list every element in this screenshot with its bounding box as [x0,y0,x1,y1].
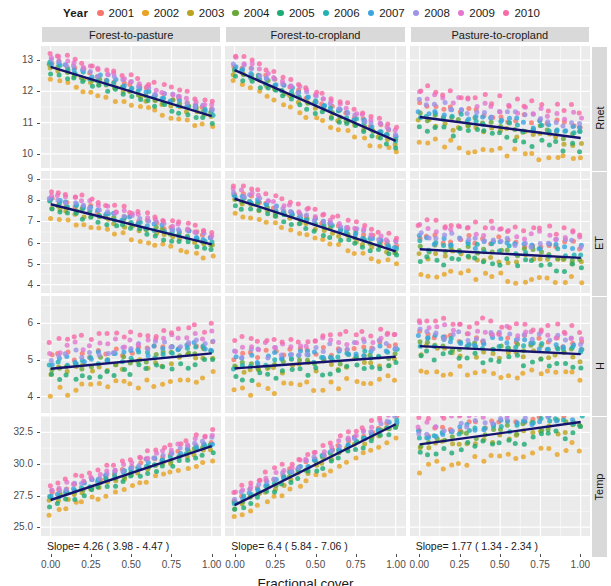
y-tick-label: 11 [0,117,33,128]
legend-swatch-icon [232,10,239,17]
panel-canvas [410,46,590,168]
legend-swatch-icon [458,10,465,17]
x-tick-mark [580,554,581,557]
facet-row-strip-et: ET [591,171,608,315]
legend-item-2001[interactable]: 2001 [97,7,134,19]
y-tick-mark [37,60,40,61]
legend-item-2006[interactable]: 2006 [323,7,360,19]
y-tick-label: 32.5 [0,426,33,437]
panel-canvas [225,171,405,293]
y-tick-label: 25.0 [0,521,33,532]
facet-panel-rnet-1 [225,46,405,168]
x-tick-label: 0.75 [522,559,558,570]
legend-swatch-icon [142,10,149,17]
facet-column-strip-pasture-to-cropland: Pasture-to-cropland [410,26,590,43]
facet-column-label: Pasture-to-cropland [452,29,549,41]
facet-row-strip-h: H [591,296,608,435]
y-tick-mark [37,123,40,124]
panel-canvas [225,416,405,536]
y-tick-mark [37,264,40,265]
x-tick-mark [131,554,132,557]
legend-item-2008[interactable]: 2008 [413,7,450,19]
y-tick-label: 4 [0,391,33,402]
x-tick-mark [396,554,397,557]
x-tick-mark [356,554,357,557]
legend-item-2004[interactable]: 2004 [232,7,269,19]
facet-panel-rnet-0 [41,46,221,168]
legend-item-2010[interactable]: 2010 [503,7,540,19]
panel-canvas [225,296,405,413]
panel-canvas [41,416,221,536]
legend-label: 2010 [514,7,540,19]
y-tick-label: 12 [0,85,33,96]
x-tick-label: 0.25 [257,559,293,570]
legend-item-2002[interactable]: 2002 [142,7,179,19]
slope-annotation: Slope= 4.26 ( 3.98 - 4.47 ) [47,540,219,552]
legend-swatch-icon [277,10,284,17]
facet-grid: Forest-to-pastureForest-to-croplandPastu… [0,26,611,586]
x-tick-mark [500,554,501,557]
facet-column-label: Forest-to-pasture [89,29,173,41]
legend-label: 2001 [109,7,135,19]
legend-label: 2008 [424,7,450,19]
legend: Year 20012002200320042005200620072008200… [0,0,611,26]
panel-canvas [225,46,405,168]
panel-canvas [410,296,590,413]
x-tick-mark [51,554,52,557]
legend-swatch-icon [323,10,330,17]
y-tick-mark [37,323,40,324]
facet-row-strip-temp: Temp [591,416,608,558]
slope-annotation: Slope= 6.4 ( 5.84 - 7.06 ) [231,540,403,552]
panel-canvas [410,416,590,536]
legend-swatch-icon [97,10,104,17]
legend-item-2009[interactable]: 2009 [458,7,495,19]
facet-column-strip-forest-to-pasture: Forest-to-pasture [41,26,221,43]
y-tick-mark [37,464,40,465]
x-tick-label: 0.00 [33,559,69,570]
legend-swatch-icon [503,10,510,17]
x-axis-title: Fractional cover [0,576,611,586]
y-tick-label: 27.5 [0,490,33,501]
legend-item-2003[interactable]: 2003 [187,7,224,19]
legend-label: 2007 [379,7,405,19]
y-tick-label: 9 [0,173,33,184]
facet-panel-et-2 [410,171,590,293]
facet-column-label: Forest-to-cropland [271,29,361,41]
x-tick-label: 0.50 [482,559,518,570]
x-tick-label: 0.75 [153,559,189,570]
facet-column-strip-forest-to-cropland: Forest-to-cropland [225,26,405,43]
facet-row-label: ET [594,236,606,250]
panel-canvas [41,171,221,293]
y-tick-label: 10 [0,148,33,159]
y-tick-label: 5 [0,258,33,269]
facet-panel-temp-0 [41,416,221,536]
facet-panel-et-1 [225,171,405,293]
panel-canvas [41,46,221,168]
legend-item-2007[interactable]: 2007 [368,7,405,19]
facet-panel-temp-2 [410,416,590,536]
legend-label: 2004 [244,7,270,19]
y-tick-mark [37,360,40,361]
facet-panel-h-0 [41,296,221,413]
x-tick-mark [212,554,213,557]
y-tick-mark [37,221,40,222]
x-tick-label: 0.00 [401,559,437,570]
x-tick-label: 0.50 [113,559,149,570]
x-tick-label: 0.25 [442,559,478,570]
legend-swatch-icon [413,10,420,17]
legend-title: Year [63,7,88,19]
y-tick-label: 8 [0,194,33,205]
x-tick-mark [540,554,541,557]
panel-canvas [410,171,590,293]
y-tick-label: 30.0 [0,458,33,469]
facet-panel-rnet-2 [410,46,590,168]
legend-label: 2006 [334,7,360,19]
legend-label: 2002 [154,7,180,19]
legend-swatch-icon [368,10,375,17]
legend-item-2005[interactable]: 2005 [277,7,314,19]
facet-panel-temp-1 [225,416,405,536]
x-tick-label: 0.25 [73,559,109,570]
x-tick-mark [235,554,236,557]
panel-canvas [41,296,221,413]
facet-row-label: H [593,362,605,370]
